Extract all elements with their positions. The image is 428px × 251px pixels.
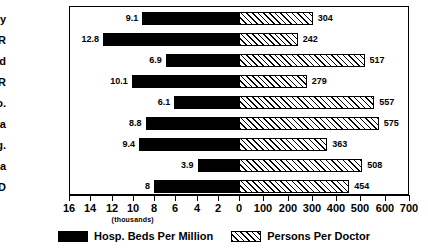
tick-doctors-300 [312, 195, 313, 201]
tick-label-beds-14: 14 [78, 203, 102, 214]
tick-beds-6 [175, 195, 176, 201]
category-label-bulg: Bulg. [0, 140, 6, 151]
tick-label-doctors-400: 400 [324, 203, 348, 214]
value-label-hosp-beds-3: 10.1 [102, 77, 128, 86]
legend-swatch-solid-icon [58, 231, 88, 242]
category-label-romania: Romania [0, 119, 6, 130]
bar-persons-per-doctor-2 [239, 54, 365, 67]
value-label-hosp-beds-8: 8 [124, 182, 150, 191]
value-label-persons-per-doctor-2: 517 [370, 56, 385, 65]
category-label-albania: Albania [0, 161, 6, 172]
tick-beds-8 [154, 195, 155, 201]
bar-persons-per-doctor-7 [239, 159, 362, 172]
chart-legend: Hosp. Beds Per Million Persons Per Docto… [0, 230, 428, 242]
value-label-hosp-beds-0: 9.1 [112, 14, 138, 23]
tick-label-doctors-600: 600 [373, 203, 397, 214]
legend-item-persons-per-doctor: Persons Per Doctor [231, 230, 370, 242]
category-label-hungary: Hungary [0, 14, 6, 25]
legend-item-hosp-beds: Hosp. Beds Per Million [58, 230, 213, 242]
bar-persons-per-doctor-8 [239, 180, 349, 193]
value-label-hosp-beds-2: 6.9 [136, 56, 162, 65]
value-label-hosp-beds-4: 6.1 [144, 98, 170, 107]
tick-doctors-700 [409, 195, 410, 201]
bar-hosp-beds-2 [166, 54, 239, 67]
bar-hosp-beds-5 [146, 117, 240, 130]
category-label-oecd: OECD [0, 182, 6, 193]
bar-persons-per-doctor-5 [239, 117, 379, 130]
value-label-persons-per-doctor-5: 575 [384, 119, 399, 128]
value-label-persons-per-doctor-7: 508 [367, 161, 382, 170]
tick-label-doctors-700: 700 [397, 203, 421, 214]
tick-doctors-500 [360, 195, 361, 201]
value-label-persons-per-doctor-3: 279 [312, 77, 327, 86]
category-label-yugo: Yugo. [0, 98, 6, 109]
value-label-persons-per-doctor-0: 304 [318, 14, 333, 23]
tick-label-doctors-300: 300 [300, 203, 324, 214]
bar-hosp-beds-7 [198, 159, 239, 172]
value-label-hosp-beds-1: 12.8 [73, 35, 99, 44]
legend-swatch-hatch-icon [231, 231, 261, 242]
value-label-hosp-beds-6: 9.4 [109, 140, 135, 149]
value-label-hosp-beds-7: 3.9 [168, 161, 194, 170]
axis-unit-note: (thousands) [103, 216, 163, 223]
value-label-persons-per-doctor-8: 454 [354, 182, 369, 191]
bar-hosp-beds-6 [139, 138, 239, 151]
value-label-persons-per-doctor-6: 363 [332, 140, 347, 149]
legend-label-hosp-beds: Hosp. Beds Per Million [94, 230, 213, 242]
bar-hosp-beds-3 [132, 75, 239, 88]
bar-persons-per-doctor-6 [239, 138, 327, 151]
tick-doctors-600 [385, 195, 386, 201]
value-label-hosp-beds-5: 8.8 [116, 119, 142, 128]
bar-hosp-beds-1 [103, 33, 239, 46]
tick-doctors-400 [336, 195, 337, 201]
tick-doctors-200 [288, 195, 289, 201]
tick-beds-0 [239, 195, 240, 201]
tick-beds-12 [112, 195, 113, 201]
category-label-poland: Poland [0, 56, 6, 67]
value-label-persons-per-doctor-1: 242 [303, 35, 318, 44]
tick-label-beds-0: 0 [227, 203, 251, 214]
value-label-persons-per-doctor-4: 557 [379, 98, 394, 107]
tick-beds-2 [218, 195, 219, 201]
bar-persons-per-doctor-0 [239, 12, 313, 25]
chart-container: HungaryX-USSRPolandCSFRYugo.RomaniaBulg.… [0, 0, 428, 251]
tick-beds-16 [69, 195, 70, 201]
bar-persons-per-doctor-1 [239, 33, 298, 46]
tick-label-doctors-200: 200 [276, 203, 300, 214]
bar-hosp-beds-8 [154, 180, 239, 193]
bar-persons-per-doctor-4 [239, 96, 374, 109]
tick-beds-10 [133, 195, 134, 201]
bar-persons-per-doctor-3 [239, 75, 307, 88]
bar-hosp-beds-4 [174, 96, 239, 109]
tick-label-beds-6: 6 [163, 203, 187, 214]
bar-hosp-beds-0 [142, 12, 239, 25]
category-label-csfr: CSFR [0, 77, 6, 88]
legend-label-persons-per-doctor: Persons Per Doctor [267, 230, 370, 242]
category-label-x-ussr: X-USSR [0, 35, 6, 46]
tick-label-doctors-100: 100 [251, 203, 275, 214]
tick-beds-14 [90, 195, 91, 201]
tick-doctors-100 [263, 195, 264, 201]
tick-beds-4 [197, 195, 198, 201]
tick-label-doctors-500: 500 [348, 203, 372, 214]
